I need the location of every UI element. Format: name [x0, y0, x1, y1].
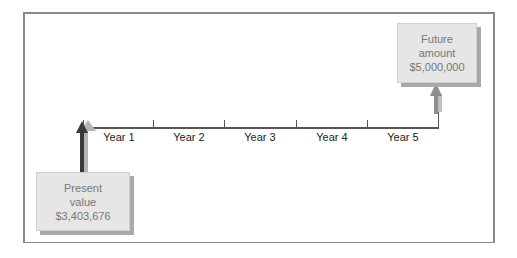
present-value-box: Present value $3,403,676: [36, 172, 130, 231]
present-arrow-icon: [76, 120, 96, 173]
present-label-line1: Present: [37, 181, 129, 195]
present-label-line2: value: [37, 195, 129, 209]
future-amount-box: Future amount $5,000,000: [397, 23, 477, 83]
present-amount: $3,403,676: [37, 209, 129, 223]
future-amount: $5,000,000: [398, 60, 476, 74]
future-label-line1: Future: [398, 32, 476, 46]
future-label-line2: amount: [398, 46, 476, 60]
future-arrow-icon: [430, 83, 442, 114]
